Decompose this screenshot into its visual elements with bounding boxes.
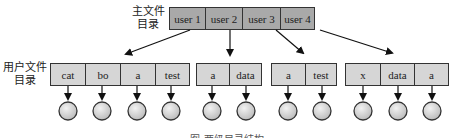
file-node xyxy=(93,102,111,120)
file-node xyxy=(237,102,255,120)
arrow-user1 xyxy=(126,30,190,54)
arrow-user4 xyxy=(320,30,392,53)
entry-to-file-arrows xyxy=(68,86,432,99)
file-node xyxy=(313,102,331,120)
file-node xyxy=(389,102,407,120)
figure-caption: 图 两级目录结构 xyxy=(0,131,454,138)
master-to-user-arrows xyxy=(126,30,392,55)
file-node xyxy=(128,102,146,120)
file-node xyxy=(162,102,180,120)
arrow-user3 xyxy=(276,30,303,53)
file-nodes xyxy=(59,102,441,120)
file-node xyxy=(203,102,221,120)
file-node xyxy=(279,102,297,120)
file-node xyxy=(59,102,77,120)
file-node xyxy=(423,102,441,120)
connectors xyxy=(0,0,454,138)
file-node xyxy=(354,102,372,120)
